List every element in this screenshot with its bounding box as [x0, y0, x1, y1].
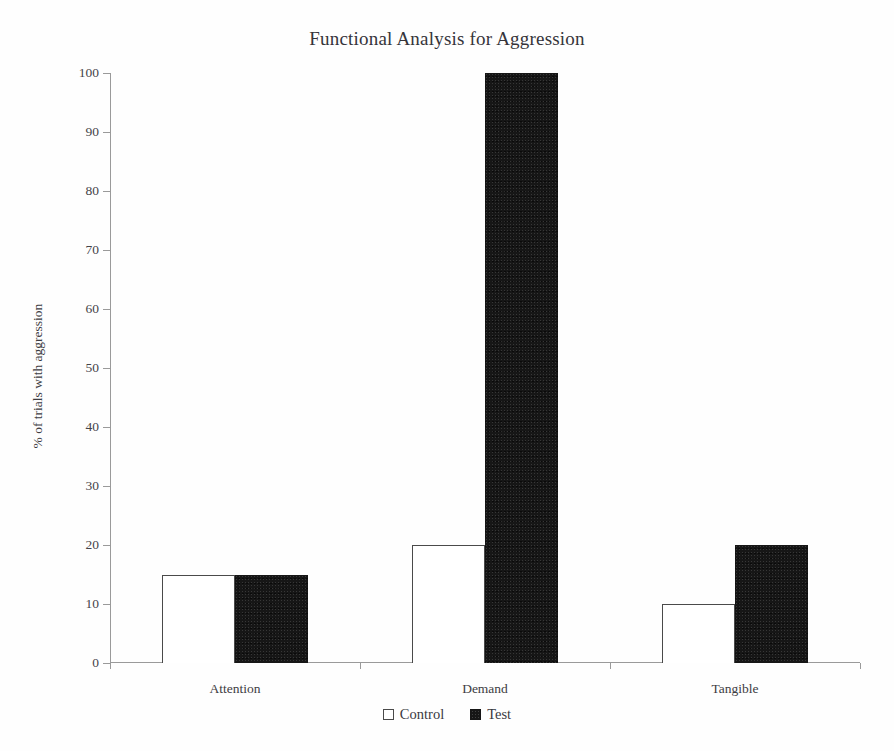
y-tick-label: 50	[86, 360, 100, 376]
y-tick-mark	[103, 545, 110, 546]
bar-demand-test	[485, 73, 558, 663]
y-tick-label: 0	[92, 655, 99, 671]
y-tick-mark	[103, 604, 110, 605]
y-tick-label: 90	[86, 124, 100, 140]
y-tick-label: 30	[86, 478, 100, 494]
open-square-icon	[383, 709, 394, 720]
chart-figure: Functional Analysis for Aggression % of …	[0, 0, 894, 751]
legend-item-control: Control	[383, 706, 444, 723]
chart-legend: ControlTest	[0, 706, 894, 723]
bar-tangible-test	[735, 545, 808, 663]
legend-item-test: Test	[470, 706, 511, 723]
y-tick-label: 20	[86, 537, 100, 553]
x-tick-label: Tangible	[711, 681, 758, 697]
y-tick-mark	[103, 73, 110, 74]
y-tick-mark	[103, 663, 110, 664]
y-axis-title: % of trials with aggression	[30, 256, 46, 496]
y-tick-label: 10	[86, 596, 100, 612]
x-tick-mark	[110, 663, 111, 669]
bar-attention-test	[235, 575, 308, 664]
y-axis-line	[110, 73, 111, 663]
x-tick-mark	[860, 663, 861, 669]
bar-tangible-control	[662, 604, 735, 663]
y-tick-mark	[103, 309, 110, 310]
y-tick-mark	[103, 132, 110, 133]
y-tick-mark	[103, 368, 110, 369]
x-tick-label: Demand	[462, 681, 508, 697]
bar-demand-control	[412, 545, 485, 663]
plot-area: 0102030405060708090100 AttentionDemandTa…	[110, 73, 860, 663]
y-tick-label: 40	[86, 419, 100, 435]
chart-title: Functional Analysis for Aggression	[0, 28, 894, 50]
filled-square-icon	[470, 709, 481, 720]
bar-attention-control	[162, 575, 235, 664]
x-tick-label: Attention	[210, 681, 261, 697]
y-tick-mark	[103, 486, 110, 487]
y-tick-mark	[103, 250, 110, 251]
y-tick-label: 70	[86, 242, 100, 258]
y-tick-mark	[103, 427, 110, 428]
y-tick-mark	[103, 191, 110, 192]
x-tick-mark	[360, 663, 361, 669]
x-tick-mark	[610, 663, 611, 669]
legend-label: Control	[400, 706, 444, 723]
y-tick-label: 100	[79, 65, 99, 81]
legend-label: Test	[487, 706, 511, 723]
y-tick-label: 80	[86, 183, 100, 199]
y-tick-label: 60	[86, 301, 100, 317]
